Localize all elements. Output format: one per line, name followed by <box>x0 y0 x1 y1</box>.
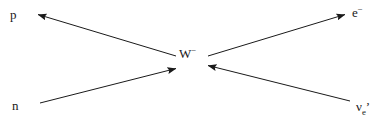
w-boson-charge-superscript: − <box>191 45 196 55</box>
feynman-diagram-canvas: p n e− νe’ W− <box>0 0 384 128</box>
neutron-label: n <box>12 99 19 112</box>
feynman-diagram-lines <box>0 0 384 128</box>
electron-antineutrino-label: νe’ <box>356 100 370 113</box>
neutron-line <box>40 69 176 104</box>
antineutrino-line <box>208 66 350 102</box>
proton-line <box>38 15 176 57</box>
electron-charge-superscript: − <box>358 4 363 14</box>
electron-label: e− <box>352 6 363 19</box>
proton-label: p <box>10 8 17 21</box>
w-boson-label: W− <box>179 47 196 60</box>
w-boson-symbol: W <box>179 46 191 61</box>
electron-line <box>208 15 345 57</box>
neutrino-prime-mark: ’ <box>366 99 370 114</box>
